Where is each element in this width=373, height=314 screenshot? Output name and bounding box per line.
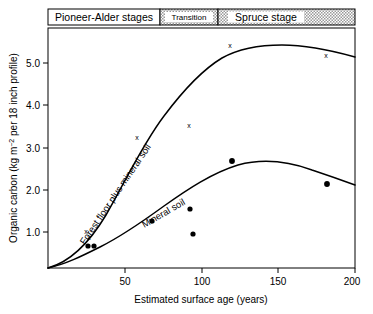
stage-label-spruce: Spruce stage xyxy=(235,11,297,23)
data-point-dot xyxy=(229,158,235,164)
data-point-dot xyxy=(187,206,192,211)
data-point-x: x xyxy=(187,122,191,129)
data-point-x: x xyxy=(87,234,91,241)
y-axis-title-sup: −2 xyxy=(8,139,15,147)
y-tick-label-1: 1.0 xyxy=(26,227,40,238)
y-axis: 5.0 4.0 3.0 2.0 1.0 xyxy=(26,58,48,238)
x-axis-title: Estimated surface age (years) xyxy=(134,294,267,305)
data-point-dot xyxy=(324,181,330,187)
data-point-dot xyxy=(85,243,90,248)
x-tick-label-200: 200 xyxy=(344,276,361,287)
svg-text:Forest floor plus mineral soil: Forest floor plus mineral soil xyxy=(77,142,153,247)
y-tick-label-5: 5.0 xyxy=(26,58,40,69)
data-point-x: x xyxy=(324,52,328,59)
chart-figure: Pioneer-Alder stages Transition Spruce s… xyxy=(0,0,373,314)
data-point-x: x xyxy=(135,134,139,141)
data-point-dot xyxy=(190,231,195,236)
svg-text:Organic carbon (kg m−2 per 18: Organic carbon (kg m−2 per 18 inch profi… xyxy=(8,53,20,243)
data-point-dot xyxy=(149,218,154,223)
chart-canvas: Pioneer-Alder stages Transition Spruce s… xyxy=(0,0,373,314)
x-tick-label-150: 150 xyxy=(270,276,287,287)
data-point-dot xyxy=(91,243,96,248)
stage-label-pioneer-alder: Pioneer-Alder stages xyxy=(55,11,153,23)
y-axis-title-pre: Organic carbon (kg m xyxy=(8,147,19,243)
y-tick-label-3: 3.0 xyxy=(26,143,40,154)
y-tick-label-2: 2.0 xyxy=(26,185,40,196)
curve-label-forest-floor: Forest floor plus mineral soil xyxy=(77,142,153,247)
y-axis-title: Organic carbon (kg m−2 per 18 inch profi… xyxy=(8,53,20,243)
svg-text:Mineral soil: Mineral soil xyxy=(140,196,187,230)
x-axis: 50 100 150 200 xyxy=(119,268,360,287)
y-axis-title-post: per 18 inch profile) xyxy=(8,53,19,139)
stage-bar: Pioneer-Alder stages Transition Spruce s… xyxy=(48,9,355,25)
curve-label-mineral-soil: Mineral soil xyxy=(140,196,187,230)
data-points-forest-floor: x x x x x x xyxy=(84,42,328,241)
x-tick-label-100: 100 xyxy=(194,276,211,287)
y-tick-label-4: 4.0 xyxy=(26,100,40,111)
stage-label-transition: Transition xyxy=(172,13,207,22)
data-point-x: x xyxy=(228,42,232,49)
x-tick-label-50: 50 xyxy=(119,276,131,287)
